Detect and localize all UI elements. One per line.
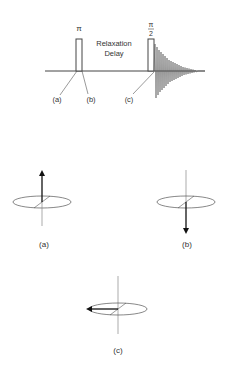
fid-signal [154,44,205,98]
relaxation-delay-label-line2: Delay [104,49,123,58]
vector-label-a: (a) [39,240,49,249]
pi-half-numerator: π [149,21,154,28]
pulse-sequence: π π 2 Relaxation Delay (a) (b) (c) [45,21,205,104]
leader-a [60,71,77,95]
vector-label-b: (b) [182,240,192,249]
point-label-c: (c) [125,95,134,104]
pi-pulse [76,39,82,71]
vector-label-c: (c) [113,346,123,355]
magnetization-vector-a: (a) [13,173,71,249]
pi-half-denominator: 2 [149,30,153,37]
relaxation-delay-label-line1: Relaxation [96,39,131,48]
pi-pulse-label: π [76,24,82,33]
inversion-recovery-diagram: π π 2 Relaxation Delay (a) (b) (c) (a) (… [0,0,229,371]
point-label-b: (b) [86,95,96,104]
leader-b [82,71,88,94]
point-label-a: (a) [52,95,62,104]
pi-half-pulse [148,39,154,71]
magnetization-vector-c: (c) [89,276,147,355]
magnetization-vector-b: (b) [157,170,215,249]
leader-c [133,72,154,94]
